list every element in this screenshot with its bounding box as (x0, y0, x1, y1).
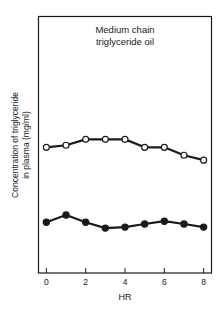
filled-circle-point (142, 221, 148, 227)
chart-title-line-1: Medium chain (95, 24, 154, 35)
y-axis-label-line-1: Concentration of triglyceride (10, 92, 20, 198)
series-open-circles (43, 136, 206, 163)
filled-circle-point (161, 218, 167, 224)
chart-title-line-2: triglyceride oil (96, 36, 154, 47)
open-circle-point (102, 136, 108, 142)
filled-circle-point (122, 224, 128, 230)
x-tick-label: 8 (201, 277, 206, 287)
filled-circle-point (201, 224, 207, 230)
x-tick-label: 4 (123, 277, 128, 287)
open-circle-point (83, 136, 89, 142)
filled-circle-point (83, 219, 89, 225)
x-axis-label: HR (119, 292, 132, 302)
open-circle-point (161, 144, 167, 150)
filled-circle-point (63, 212, 69, 218)
x-tick-label: 6 (162, 277, 167, 287)
filled-circle-point (43, 219, 49, 225)
y-axis-label-line-2: in plasma (mg/ml) (21, 111, 31, 179)
x-axis-ticks: 02468 (44, 268, 206, 287)
series-filled-circles (43, 212, 206, 231)
series-layer (43, 136, 206, 231)
x-tick-label: 0 (44, 277, 49, 287)
open-circle-point (43, 144, 49, 150)
open-circle-point (122, 136, 128, 142)
x-tick-label: 2 (83, 277, 88, 287)
filled-circle-point (181, 221, 187, 227)
open-circle-point (142, 144, 148, 150)
open-circle-point (201, 157, 207, 163)
chart: Medium chain triglyceride oil Concentrat… (0, 0, 223, 314)
filled-circle-point (102, 225, 108, 231)
open-circle-point (181, 152, 187, 158)
open-circle-point (63, 142, 69, 148)
